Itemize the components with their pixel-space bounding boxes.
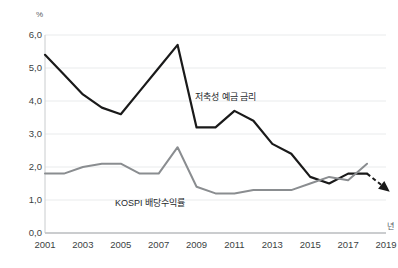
series-paths	[45, 45, 367, 194]
chart-container: % 년 6,05,04,03,02,01,00,0 저축성 예금 금리 KOSP…	[0, 0, 398, 268]
series-line-kospi-yield	[45, 147, 367, 193]
x-tick-label: 2017	[338, 239, 359, 250]
y-axis-labels: 6,05,04,03,02,01,00,0	[16, 0, 42, 268]
x-tick-label: 2013	[262, 239, 283, 250]
x-tick-label: 2015	[300, 239, 321, 250]
x-tick-label: 2009	[186, 239, 207, 250]
forecast-arrow-line	[367, 174, 383, 187]
y-tick-label: 2,0	[18, 162, 42, 172]
x-tick-label: 2005	[110, 239, 131, 250]
y-tick-label: 1,0	[18, 195, 42, 205]
y-tick-label: 5,0	[18, 63, 42, 73]
y-tick-label: 4,0	[18, 96, 42, 106]
x-axis-unit-label: 년	[387, 220, 394, 231]
x-axis-labels: 2001200320052007200920112013201520172019	[0, 239, 398, 255]
gridlines	[45, 35, 386, 233]
x-tick-label: 2011	[224, 239, 244, 250]
y-tick-label: 0,0	[18, 228, 42, 238]
plot-area	[0, 0, 398, 268]
x-tick-label: 2007	[148, 239, 169, 250]
y-tick-label: 6,0	[18, 30, 42, 40]
x-tick-label: 2001	[34, 239, 55, 250]
x-tick-label: 2003	[72, 239, 93, 250]
series-label-kospi-yield: KOSPI 배당수익률	[115, 196, 185, 209]
x-tick-label: 2019	[375, 239, 396, 250]
series-line-deposit-rate	[45, 45, 367, 184]
forecast-arrow-icon	[367, 174, 390, 192]
y-tick-label: 3,0	[18, 129, 42, 139]
series-label-deposit-rate: 저축성 예금 금리	[195, 90, 256, 103]
